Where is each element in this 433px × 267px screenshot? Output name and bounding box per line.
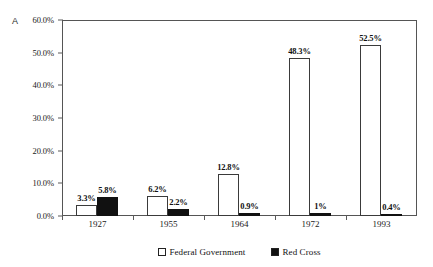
legend-item-red-cross: Red Cross	[271, 247, 320, 257]
y-axis-tick-mark	[58, 52, 63, 53]
x-axis-tick-mark	[346, 215, 347, 220]
bar-federal-government	[147, 196, 168, 216]
bar-federal-government	[218, 174, 239, 216]
x-axis-tick-mark	[62, 215, 63, 220]
x-axis-tick-mark	[204, 215, 205, 220]
y-axis-tick-mark	[58, 118, 63, 119]
bar-value-label: 12.8%	[217, 162, 239, 172]
legend-label-federal-government: Federal Government	[169, 247, 245, 257]
bar-federal-government	[360, 45, 381, 217]
bar-value-label: 48.3%	[288, 46, 310, 56]
bar-value-label: 2.2%	[169, 197, 187, 207]
bar-value-label: 3.3%	[77, 193, 95, 203]
plot-area: 0.0%10.0%20.0%30.0%40.0%50.0%60.0%19273.…	[62, 20, 417, 216]
x-axis-category-label: 1993	[373, 219, 391, 229]
bar-value-label: 5.8%	[98, 185, 116, 195]
legend-swatch-red-cross-icon	[271, 248, 279, 256]
bar-red-cross	[310, 213, 331, 216]
y-axis-tick-mark	[58, 85, 63, 86]
legend-swatch-federal-government-icon	[158, 248, 166, 256]
x-axis-tick-mark	[275, 215, 276, 220]
bar-red-cross	[381, 214, 402, 217]
bar-value-label: 52.5%	[359, 33, 381, 43]
x-axis-category-label: 1964	[231, 219, 249, 229]
bar-federal-government	[289, 58, 310, 216]
bar-red-cross	[97, 197, 118, 216]
legend-item-federal-government: Federal Government	[158, 247, 245, 257]
bar-value-label: 6.2%	[148, 184, 166, 194]
y-axis-tick-mark	[58, 150, 63, 151]
x-axis-tick-mark	[133, 215, 134, 220]
bar-value-label: 0.9%	[240, 201, 258, 211]
bar-federal-government	[76, 205, 97, 216]
bar-value-label: 0.4%	[382, 202, 400, 212]
bar-chart-panel-a: A 0.0%10.0%20.0%30.0%40.0%50.0%60.0%1927…	[0, 0, 433, 267]
bar-red-cross	[239, 213, 260, 216]
legend-label-red-cross: Red Cross	[282, 247, 320, 257]
bar-red-cross	[168, 209, 189, 216]
chart-legend: Federal Government Red Cross	[62, 244, 417, 260]
bar-value-label: 1%	[314, 201, 326, 211]
panel-label: A	[12, 16, 18, 26]
y-axis-tick-mark	[58, 183, 63, 184]
x-axis-category-label: 1955	[160, 219, 178, 229]
x-axis-category-label: 1927	[89, 219, 107, 229]
y-axis-tick-mark	[58, 20, 63, 21]
x-axis-category-label: 1972	[302, 219, 320, 229]
